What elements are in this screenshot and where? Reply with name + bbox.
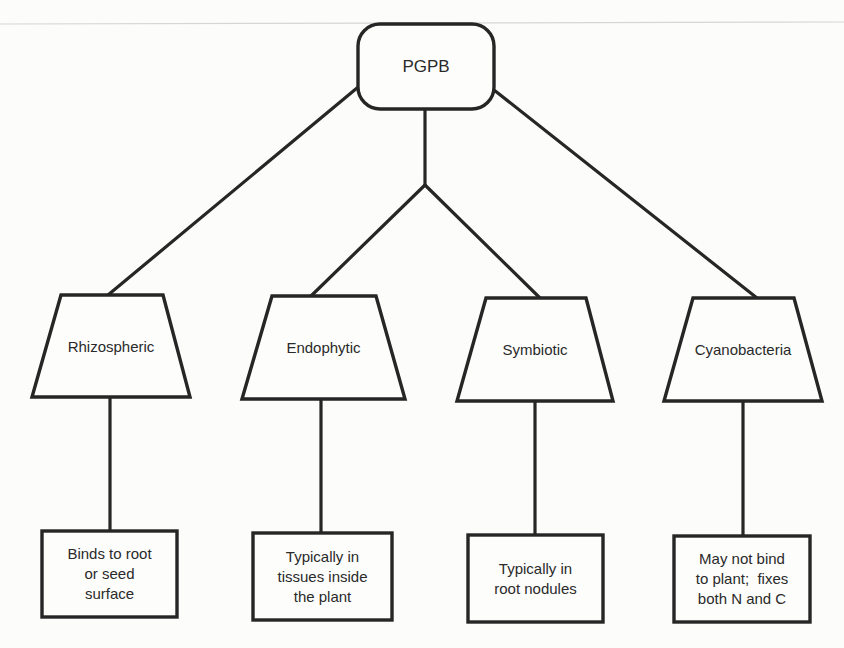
cyanobacteria-description-shape bbox=[674, 536, 810, 622]
rhizospheric-node-shape bbox=[32, 295, 190, 397]
diagram-canvas: PGPB Rhizospheric Endophytic Symbiotic C… bbox=[0, 0, 844, 648]
endophytic-description-shape bbox=[253, 533, 392, 620]
edge-junction-symbiotic bbox=[425, 185, 540, 298]
root-node-shape bbox=[358, 24, 494, 109]
diagram-shapes bbox=[0, 0, 844, 648]
edge-root-rhizospheric bbox=[108, 88, 357, 295]
cyanobacteria-node-shape bbox=[664, 298, 822, 401]
rhizospheric-description-shape bbox=[42, 531, 177, 617]
edge-junction-endophytic bbox=[311, 185, 425, 296]
symbiotic-description-shape bbox=[468, 535, 603, 622]
edge-root-cyanobacteria bbox=[494, 90, 757, 298]
endophytic-node-shape bbox=[242, 296, 405, 399]
symbiotic-node-shape bbox=[457, 298, 613, 401]
